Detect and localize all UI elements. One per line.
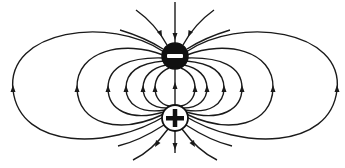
right-field-loops [181,32,337,139]
field-line-right-4 [185,61,224,111]
arrow-top-center [173,33,178,40]
arrow-bottom-center [173,143,178,150]
field-line-top-left-2 [120,30,163,49]
left-field-loops [13,32,169,139]
arrow-center [173,82,178,89]
arrow-left-6 [153,85,158,92]
dipole-field-diagram [0,0,345,168]
arrow-left-2 [75,85,80,92]
field-line-right-2 [186,48,273,125]
arrow-left-5 [141,85,146,92]
arrow-right-5 [205,85,210,92]
arrow-right-3 [240,85,245,92]
arrow-right-6 [193,85,198,92]
arrow-left-4 [124,85,129,92]
field-line-left-6 [155,68,169,106]
field-line-left-4 [126,61,165,111]
top-open-lines [120,2,230,49]
field-line-top-right-2 [187,30,230,49]
arrow-left-1 [11,85,16,92]
field-line-right-6 [181,68,195,106]
minus-sign-icon [167,54,183,58]
arrow-right-4 [222,85,227,92]
negative-charge [162,43,188,69]
arrow-left-3 [106,85,111,92]
arrow-right-1 [335,85,340,92]
positive-charge [162,105,188,131]
field-line-left-2 [77,48,164,125]
field-lines-canvas [0,0,345,168]
arrow-right-2 [271,85,276,92]
plus-sign-vertical-icon [173,109,178,127]
